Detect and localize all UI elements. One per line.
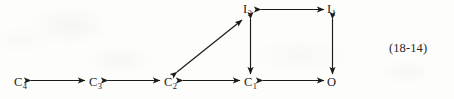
- figure-canvas: C4 C3 C2 C1 O I2 I1 (18-14): [0, 0, 454, 99]
- equation-number: (18-14): [389, 42, 427, 55]
- node-label-o: O: [327, 76, 336, 89]
- node-label-c4: C4: [14, 76, 27, 89]
- node-label-c1: C1: [244, 76, 257, 89]
- diagram-arrows: [0, 0, 454, 99]
- node-label-i1: I1: [327, 3, 336, 16]
- node-label-i2: I2: [243, 3, 252, 16]
- edge-c2-i2: [177, 20, 242, 72]
- node-label-c2: C2: [164, 76, 177, 89]
- node-label-c3: C3: [89, 76, 102, 89]
